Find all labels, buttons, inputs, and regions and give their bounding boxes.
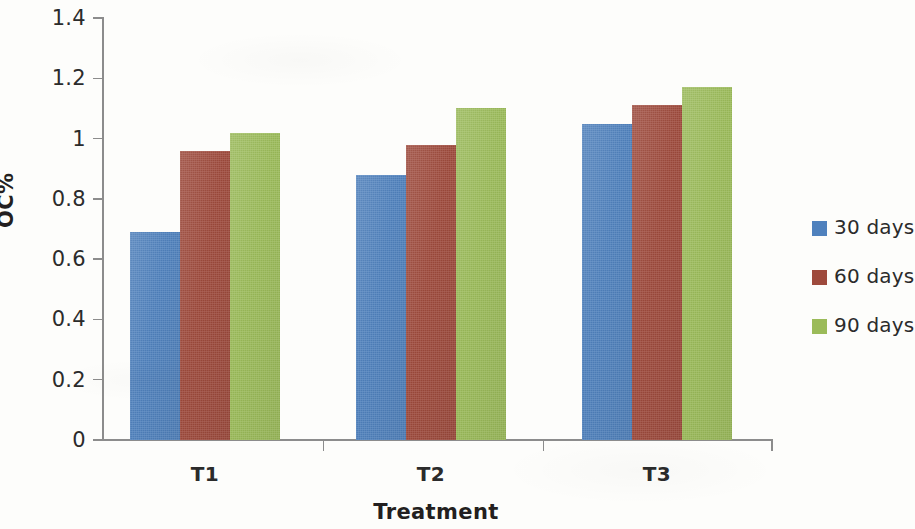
legend-item: 60 days <box>806 257 915 306</box>
x-axis-category-label: T3 <box>643 462 672 486</box>
y-axis-tick-label: 0 <box>0 428 86 452</box>
y-axis-tick-label: 0.6 <box>0 247 86 271</box>
y-axis-tick <box>93 138 103 139</box>
legend-swatch <box>812 270 827 285</box>
bar <box>632 105 682 440</box>
y-axis-tick <box>93 17 103 18</box>
bar <box>406 145 456 440</box>
bar <box>456 108 506 440</box>
legend-label: 30 days <box>834 215 914 239</box>
x-axis-tick <box>543 440 544 451</box>
legend-swatch <box>812 319 827 334</box>
chart-legend: 30 days60 days90 days <box>806 208 915 355</box>
bar <box>682 87 732 440</box>
bar-sheen <box>456 108 506 440</box>
y-axis-tick <box>93 258 103 259</box>
legend-item: 90 days <box>806 306 915 355</box>
y-axis-tick <box>93 78 103 79</box>
y-axis-tick <box>93 319 103 320</box>
y-axis-tick <box>93 379 103 380</box>
x-axis-tick <box>323 440 324 451</box>
y-axis-title: OC% <box>0 172 18 228</box>
bar-sheen <box>406 145 456 440</box>
legend-label: 60 days <box>834 264 914 288</box>
bar <box>356 175 406 440</box>
bar-sheen <box>230 133 280 440</box>
bar <box>230 133 280 440</box>
legend-label: 90 days <box>834 313 914 337</box>
legend-item: 30 days <box>806 208 915 257</box>
legend-swatch <box>812 221 827 236</box>
y-axis-tick-label: 1.4 <box>0 6 86 30</box>
y-axis-tick-label: 0.2 <box>0 368 86 392</box>
y-axis-tick <box>93 198 103 199</box>
x-axis-right-cap <box>771 440 773 451</box>
plot-area <box>103 18 772 440</box>
bar-sheen <box>582 124 632 441</box>
y-axis-tick-label: 0.4 <box>0 307 86 331</box>
x-axis-category-label: T1 <box>191 462 220 486</box>
bar <box>582 124 632 441</box>
x-axis-title: Treatment <box>0 500 872 524</box>
bar <box>130 232 180 440</box>
y-axis-tick-label: 1.2 <box>0 66 86 90</box>
y-axis-tick-label: 1 <box>0 127 86 151</box>
x-axis-category-label: T2 <box>417 462 446 486</box>
bar-sheen <box>632 105 682 440</box>
bar-sheen <box>180 151 230 440</box>
bar-sheen <box>682 87 732 440</box>
bar-sheen <box>130 232 180 440</box>
bar-sheen <box>356 175 406 440</box>
bar-chart: 00.20.40.60.811.21.4 OC% T1T2T3 Treatmen… <box>0 0 915 529</box>
bar <box>180 151 230 440</box>
